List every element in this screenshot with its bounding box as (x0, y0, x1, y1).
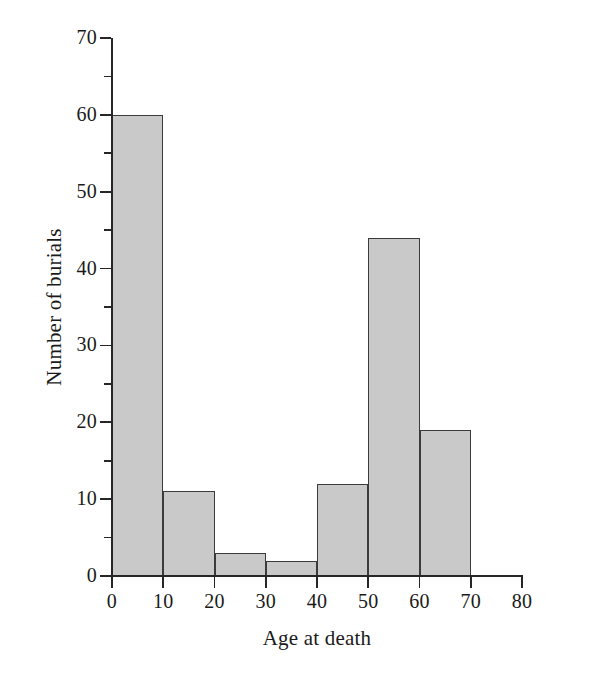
y-axis-title: Number of burials (42, 137, 67, 477)
y-tick-label: 0 (37, 565, 97, 585)
y-tick-major (100, 37, 111, 39)
x-tick-major (162, 576, 164, 588)
y-tick-minor (104, 537, 111, 539)
y-tick-minor (104, 306, 111, 308)
y-tick-label: 70 (37, 27, 97, 47)
y-tick-minor (104, 152, 111, 154)
y-tick-major (100, 498, 111, 500)
x-tick-major (316, 576, 318, 588)
y-tick-major (100, 191, 111, 193)
bar (215, 553, 266, 576)
bar (420, 430, 471, 576)
bar (317, 484, 368, 576)
x-tick-major (419, 576, 421, 588)
x-tick-major (214, 576, 216, 588)
y-tick-major (100, 345, 111, 347)
plot-area: 010203040506070 01020304050607080 Number… (0, 0, 604, 674)
y-tick-label: 10 (37, 488, 97, 508)
x-tick-label: 80 (492, 590, 552, 612)
y-tick-minor (104, 76, 111, 78)
histogram-figure: 010203040506070 01020304050607080 Number… (0, 0, 604, 674)
x-tick-major (367, 576, 369, 588)
x-axis-title: Age at death (111, 626, 523, 651)
bar (112, 115, 163, 576)
x-tick-major (111, 576, 113, 588)
y-tick-minor (104, 229, 111, 231)
y-tick-major (100, 268, 111, 270)
x-tick-major (470, 576, 472, 588)
x-tick-major (521, 576, 523, 588)
y-tick-major (100, 421, 111, 423)
y-tick-major (100, 575, 111, 577)
y-tick-minor (104, 383, 111, 385)
bar (266, 561, 317, 576)
y-tick-minor (104, 460, 111, 462)
x-tick-major (265, 576, 267, 588)
bar (163, 491, 214, 576)
y-tick-major (100, 114, 111, 116)
bar (368, 238, 419, 576)
y-axis-line (111, 38, 113, 577)
y-tick-label: 60 (37, 104, 97, 124)
